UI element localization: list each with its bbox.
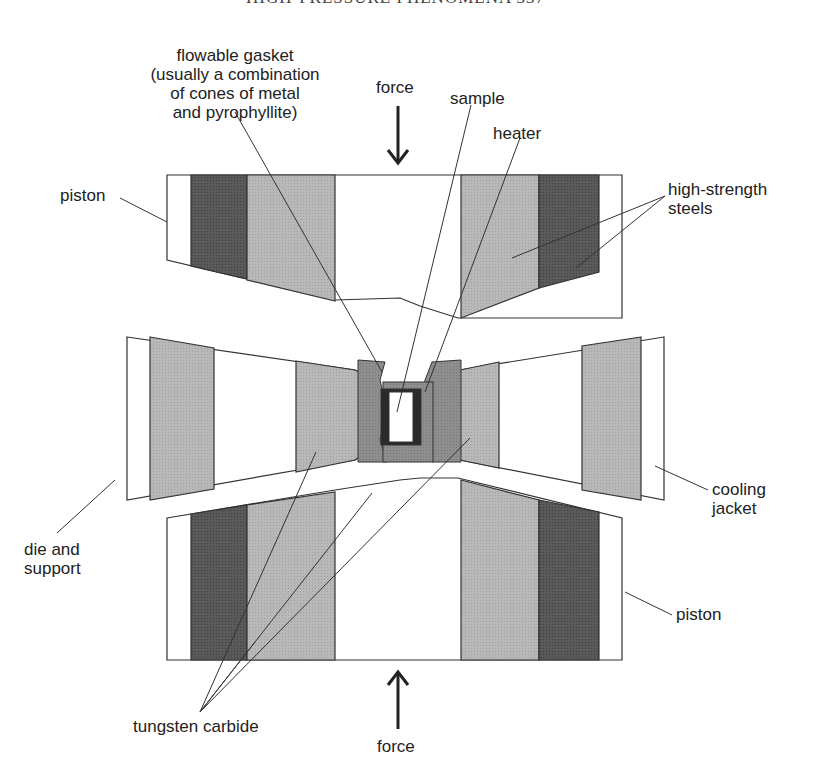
label-force-top: force [376,78,414,97]
sample [389,392,413,442]
label-flowable-gasket: flowable gasket (usually a combination o… [130,46,340,122]
steels-line-1: high-strength [668,180,767,199]
label-die-and-support: die and support [24,540,81,578]
force-arrow-top [388,106,408,163]
left-die [127,337,385,500]
top-piston [167,175,622,318]
cooling-line-1: cooling [712,480,766,499]
die-line-2: support [24,559,81,578]
force-arrow-bottom [388,672,408,729]
die-line-1: die and [24,540,81,559]
label-force-bottom: force [377,737,415,756]
label-sample: sample [450,89,505,108]
gasket-line-4: and pyrophyllite) [130,103,340,122]
belt-apparatus-diagram [0,0,822,774]
label-heater: heater [493,124,541,143]
steels-line-2: steels [668,199,767,218]
label-tungsten-carbide: tungsten carbide [133,717,259,736]
gasket-line-3: of cones of metal [130,84,340,103]
label-piston-bottom: piston [676,605,721,624]
gasket-line-2: (usually a combination [130,65,340,84]
cooling-line-2: jacket [712,499,766,518]
gasket-line-1: flowable gasket [130,46,340,65]
label-piston-top: piston [60,186,105,205]
label-cooling-jacket: cooling jacket [712,480,766,518]
label-high-strength-steels: high-strength steels [668,180,767,218]
